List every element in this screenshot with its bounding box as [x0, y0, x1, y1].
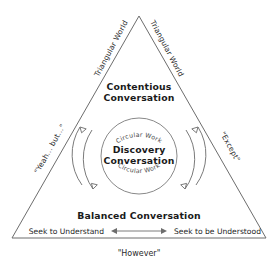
rotation-arrow-left — [72, 127, 97, 189]
apex-label-right: Triangular World — [148, 18, 186, 79]
axis-label-right: Seek to be Understood — [174, 227, 261, 236]
apex-label-left: Triangular World — [92, 19, 130, 80]
balanced-label: Balanced Conversation — [77, 210, 201, 221]
contentious-label-line2: Conversation — [103, 92, 174, 103]
double-headed-arrow-icon — [111, 228, 167, 234]
side-label-right: "Except" — [218, 130, 242, 163]
rotation-arrow-right — [181, 127, 206, 189]
caption-however: "However" — [118, 249, 161, 258]
circular-work-top-label: Circular Work — [114, 131, 163, 145]
triangular-world-diagram: Triangular World Triangular World "Yeah.… — [0, 0, 278, 262]
axis-label-left: Seek to Understand — [29, 227, 104, 236]
discovery-label-line2: Conversation — [103, 155, 174, 166]
side-label-left: "Yeah... but..." — [32, 122, 67, 175]
contentious-label-line1: Contentious — [106, 81, 171, 92]
discovery-label-line1: Discovery — [113, 144, 166, 155]
triangle-outline — [12, 16, 266, 238]
